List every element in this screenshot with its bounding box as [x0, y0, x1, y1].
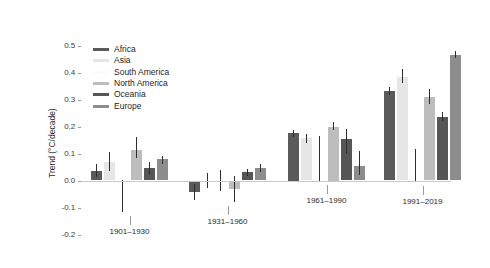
- y-tick-mark: [78, 73, 81, 74]
- error-bar: [260, 164, 261, 172]
- bar[interactable]: [424, 97, 435, 181]
- legend-label: Africa: [114, 44, 136, 55]
- y-axis-title: Trend (°C/decade): [47, 108, 57, 178]
- error-bar: [429, 89, 430, 104]
- bar[interactable]: [437, 117, 448, 180]
- error-bar: [442, 112, 443, 120]
- bar-group: [288, 32, 367, 248]
- x-group-tick: [423, 186, 424, 195]
- y-tick-mark: [78, 127, 81, 128]
- legend-swatch-icon: [93, 105, 109, 108]
- error-bar: [96, 164, 97, 177]
- legend-swatch-icon: [93, 59, 109, 62]
- y-tick-mark: [78, 154, 81, 155]
- bar[interactable]: [288, 133, 299, 180]
- error-bar: [319, 136, 320, 181]
- x-group-label: 1991–2019: [389, 197, 457, 206]
- error-bar: [109, 152, 110, 171]
- y-tick-label: 0.2: [47, 122, 75, 131]
- y-tick-label: -0.1: [47, 203, 75, 212]
- y-tick-label: -0.2: [47, 230, 75, 239]
- y-tick-label: 0.3: [47, 95, 75, 104]
- error-bar: [162, 156, 163, 164]
- error-bar: [455, 51, 456, 57]
- legend-swatch-icon: [93, 71, 109, 74]
- legend-label: South America: [114, 67, 169, 78]
- legend-label: Asia: [114, 55, 131, 66]
- legend-item[interactable]: North America: [93, 78, 213, 89]
- legend-item[interactable]: Oceania: [93, 89, 213, 100]
- error-bar: [306, 134, 307, 143]
- bar[interactable]: [301, 138, 312, 181]
- x-group-tick: [130, 216, 131, 225]
- error-bar: [389, 87, 390, 94]
- y-tick-label: 0.0: [47, 176, 75, 185]
- y-tick-mark: [78, 208, 81, 209]
- zero-baseline: [81, 181, 451, 182]
- error-bar: [333, 122, 334, 129]
- x-group-label: 1961–1990: [293, 196, 361, 205]
- legend-swatch-icon: [93, 48, 109, 51]
- legend-item[interactable]: Europe: [93, 100, 213, 111]
- x-group-label: 1931–1960: [194, 217, 262, 226]
- bar[interactable]: [450, 55, 461, 181]
- y-tick-mark: [78, 100, 81, 101]
- legend-swatch-icon: [93, 93, 109, 96]
- error-bar: [194, 184, 195, 200]
- bar-group: [384, 32, 463, 248]
- error-bar: [247, 169, 248, 175]
- x-group-tick: [327, 185, 328, 194]
- bar[interactable]: [397, 77, 408, 181]
- error-bar: [234, 176, 235, 202]
- y-tick-label: 0.1: [47, 149, 75, 158]
- error-bar: [415, 149, 416, 181]
- legend-item[interactable]: Asia: [93, 55, 213, 66]
- error-bar: [346, 129, 347, 154]
- error-bar: [136, 137, 137, 158]
- legend-item[interactable]: South America: [93, 67, 213, 78]
- y-tick-label: 0.4: [47, 68, 75, 77]
- error-bar: [149, 162, 150, 174]
- legend-label: Oceania: [114, 89, 146, 100]
- legend: AfricaAsiaSouth AmericaNorth AmericaOcea…: [93, 44, 213, 112]
- y-tick-label: 0.5: [47, 41, 75, 50]
- legend-item[interactable]: Africa: [93, 44, 213, 55]
- legend-label: North America: [114, 78, 168, 89]
- x-group-tick: [228, 206, 229, 215]
- legend-label: Europe: [114, 101, 141, 112]
- x-group-label: 1901–1930: [96, 227, 164, 236]
- bar[interactable]: [328, 127, 339, 181]
- bar[interactable]: [384, 91, 395, 180]
- error-bar: [293, 130, 294, 137]
- y-tick-mark: [78, 46, 81, 47]
- error-bar: [402, 69, 403, 83]
- error-bar: [359, 151, 360, 174]
- error-bar: [122, 180, 123, 212]
- y-tick-mark: [78, 235, 81, 236]
- figure-canvas: Trend (°C/decade) 0.50.40.30.20.10.0-0.1…: [0, 0, 490, 268]
- legend-swatch-icon: [93, 82, 109, 85]
